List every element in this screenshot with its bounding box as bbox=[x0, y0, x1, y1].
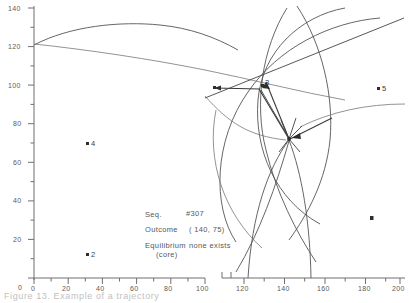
svg-text:120: 120 bbox=[8, 43, 21, 50]
trajectory-curves bbox=[34, 6, 405, 278]
legend-outcome-label: Outcome bbox=[145, 225, 178, 234]
svg-text:120: 120 bbox=[236, 285, 249, 292]
legend-seq-value: #307 bbox=[186, 209, 204, 218]
x-axis-right-tick-labels: 120 140 160 180 200 bbox=[236, 285, 405, 292]
svg-text:140: 140 bbox=[8, 5, 21, 12]
svg-text:100: 100 bbox=[196, 285, 209, 292]
svg-text:2: 2 bbox=[91, 250, 95, 259]
legend-outcome-value: ( 140, 75) bbox=[189, 225, 225, 234]
svg-text:40: 40 bbox=[13, 197, 22, 204]
legend-equilibrium-sublabel: (core) bbox=[156, 250, 178, 259]
legend-equilibrium-value: none exists bbox=[189, 241, 231, 250]
figure-container: 4 2 3 5 140 120 100 80 60 40 20 0 0 20 4… bbox=[0, 0, 409, 303]
svg-text:80: 80 bbox=[164, 285, 173, 292]
y-axis-tick-labels: 140 120 100 80 60 40 20 0 bbox=[8, 5, 22, 291]
right-x-axis bbox=[222, 272, 405, 284]
svg-text:3: 3 bbox=[265, 78, 269, 87]
trajectory-arrows bbox=[205, 18, 404, 152]
svg-text:180: 180 bbox=[358, 285, 371, 292]
legend-equilibrium-label: Equilibrium bbox=[145, 241, 186, 250]
data-points: 4 2 3 5 bbox=[86, 78, 386, 259]
figure-caption: Figure 13. Example of a trajectory bbox=[4, 291, 159, 301]
svg-text:200: 200 bbox=[392, 285, 405, 292]
svg-text:4: 4 bbox=[91, 139, 95, 148]
svg-text:140: 140 bbox=[277, 285, 290, 292]
trajectory-plot: 4 2 3 5 140 120 100 80 60 40 20 0 0 20 4… bbox=[0, 0, 409, 303]
svg-text:60: 60 bbox=[13, 159, 22, 166]
svg-text:160: 160 bbox=[317, 285, 330, 292]
svg-text:100: 100 bbox=[8, 82, 21, 89]
svg-text:0: 0 bbox=[18, 284, 22, 291]
left-x-axis bbox=[34, 278, 205, 284]
svg-text:5: 5 bbox=[382, 84, 386, 93]
legend-seq-label: Seq. bbox=[145, 210, 162, 219]
svg-text:20: 20 bbox=[13, 236, 22, 243]
left-y-axis bbox=[28, 6, 34, 280]
svg-text:80: 80 bbox=[13, 120, 22, 127]
